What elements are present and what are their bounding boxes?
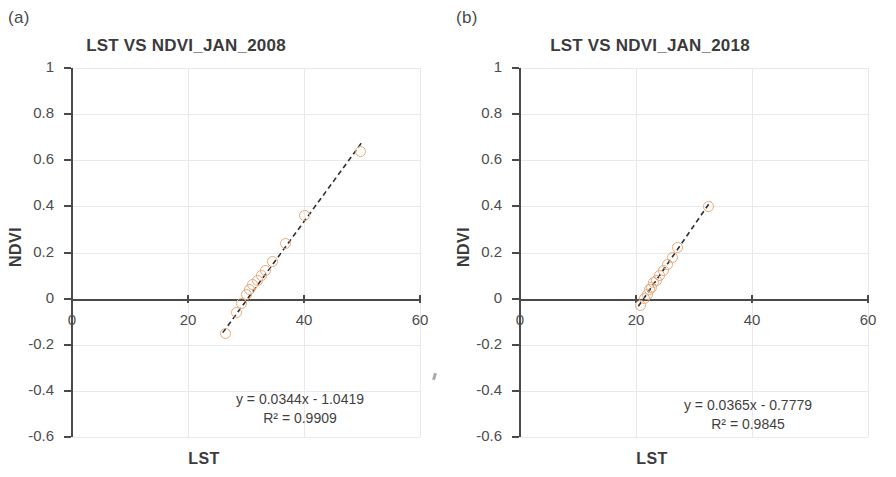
- y-axis-tick: [512, 159, 519, 161]
- y-axis-tick-label: -0.6: [0, 427, 54, 444]
- y-axis-tick: [512, 67, 519, 69]
- y-axis-tick-label: -0.6: [444, 427, 502, 444]
- y-axis-tick: [512, 390, 519, 392]
- panel-title-a: LST VS NDVI_JAN_2008: [0, 36, 410, 56]
- y-axis-tick-label: 0: [0, 289, 54, 306]
- data-point-marker: [299, 210, 310, 221]
- trendline: [520, 68, 868, 437]
- y-axis-tick-label: 0.6: [444, 150, 502, 167]
- y-axis-tick-label: 1: [0, 58, 54, 75]
- y-axis-tick: [64, 252, 71, 254]
- x-axis-title-a: LST: [0, 450, 428, 468]
- panel-a: (a) LST VS NDVI_JAN_2008 -0.6-0.4-0.200.…: [0, 0, 448, 477]
- y-axis-tick: [512, 113, 519, 115]
- y-axis-tick-label: 0.4: [444, 196, 502, 213]
- gridline-horizontal: [520, 437, 868, 438]
- data-point-marker: [672, 242, 683, 253]
- data-point-marker: [667, 252, 678, 263]
- y-axis-tick: [512, 298, 519, 300]
- y-axis-tick: [512, 252, 519, 254]
- y-axis-tick-label: 0.8: [0, 104, 54, 121]
- y-axis-tick: [64, 113, 71, 115]
- y-axis-tick: [512, 344, 519, 346]
- data-point-marker: [355, 146, 366, 157]
- equation-b: y = 0.0365x - 0.7779: [648, 396, 848, 415]
- plot-area-b: -0.6-0.4-0.200.20.40.60.810204060: [520, 68, 868, 437]
- y-axis-tick-label: -0.2: [0, 335, 54, 352]
- y-axis-tick-label: 0.8: [444, 104, 502, 121]
- figure-container: (a) LST VS NDVI_JAN_2008 -0.6-0.4-0.200.…: [0, 0, 896, 477]
- y-axis-tick-label: 0: [444, 289, 502, 306]
- y-axis-tick-label: 0.2: [444, 243, 502, 260]
- gridline-vertical: [420, 68, 421, 437]
- r-squared-b: R² = 0.9845: [648, 415, 848, 434]
- y-axis-tick-label: 0.6: [0, 150, 54, 167]
- equation-a: y = 0.0344x - 1.0419: [200, 390, 400, 409]
- y-axis-tick-label: -0.4: [0, 381, 54, 398]
- y-axis-tick: [64, 205, 71, 207]
- data-point-marker: [703, 201, 714, 212]
- x-axis-title-b: LST: [428, 450, 876, 468]
- y-axis-tick: [512, 436, 519, 438]
- plot-area-a: -0.6-0.4-0.200.20.40.60.810204060: [72, 68, 420, 437]
- y-axis-tick: [64, 159, 71, 161]
- y-axis-tick: [512, 205, 519, 207]
- panel-letter-b: (b): [456, 8, 478, 28]
- gridline-horizontal: [72, 437, 420, 438]
- y-axis-tick: [64, 436, 71, 438]
- data-point-marker: [280, 238, 291, 249]
- y-axis-tick-label: -0.4: [444, 381, 502, 398]
- y-axis-title-b: NDVI: [455, 207, 473, 267]
- y-axis-tick: [64, 298, 71, 300]
- data-point-marker: [267, 256, 278, 267]
- scan-speck: [432, 373, 437, 381]
- y-axis-title-a: NDVI: [7, 207, 25, 267]
- data-point-marker: [220, 328, 231, 339]
- y-axis-tick-label: 1: [444, 58, 502, 75]
- y-axis-tick-label: -0.2: [444, 335, 502, 352]
- trendline: [72, 68, 420, 437]
- panel-title-b: LST VS NDVI_JAN_2018: [426, 36, 874, 56]
- panel-b: (b) LST VS NDVI_JAN_2018 -0.6-0.4-0.200.…: [448, 0, 896, 477]
- r-squared-a: R² = 0.9909: [200, 409, 400, 428]
- panel-letter-a: (a): [8, 8, 30, 28]
- y-axis-tick: [64, 390, 71, 392]
- gridline-vertical: [868, 68, 869, 437]
- y-axis-tick: [64, 67, 71, 69]
- y-axis-tick: [64, 344, 71, 346]
